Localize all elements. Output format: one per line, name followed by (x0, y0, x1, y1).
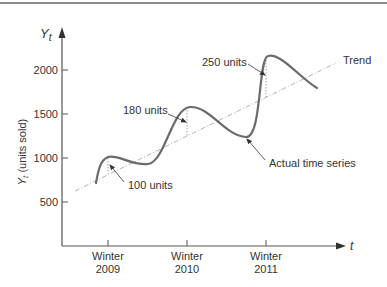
x-ticks (108, 240, 266, 246)
y-axis-title: Yt (units sold) (16, 119, 30, 185)
y-tick-500: 500 (40, 196, 58, 208)
x-axis-symbol: t (350, 239, 354, 253)
x-tick-2011-line1: Winter (250, 250, 282, 262)
y-tick-1500: 1500 (34, 108, 58, 120)
trend-label: Trend (343, 54, 371, 66)
trend-line (75, 63, 336, 191)
ann-180-leader (168, 114, 186, 122)
x-tick-2009-line2: 2009 (96, 263, 120, 275)
ann-100-label: 100 units (128, 179, 173, 191)
x-axis-arrow-icon (336, 243, 346, 250)
ann-180-label: 180 units (123, 104, 168, 116)
actual-series-leader (247, 139, 265, 160)
x-tick-2011-line2: 2011 (254, 263, 278, 275)
y-axis-arrow-icon (59, 27, 66, 38)
y-axis-symbol: Yt (40, 26, 53, 43)
time-series-chart: 2000 1500 1000 500 Winter 2009 Winter 20… (0, 0, 387, 287)
ann-250-label: 250 units (202, 56, 247, 68)
y-ticks (62, 70, 68, 202)
x-tick-2009-line1: Winter (92, 250, 124, 262)
actual-series-label: Actual time series (269, 157, 356, 169)
x-tick-2010-line1: Winter (171, 250, 203, 262)
y-tick-2000: 2000 (34, 64, 58, 76)
y-tick-1000: 1000 (34, 152, 58, 164)
x-tick-2010-line2: 2010 (175, 263, 199, 275)
